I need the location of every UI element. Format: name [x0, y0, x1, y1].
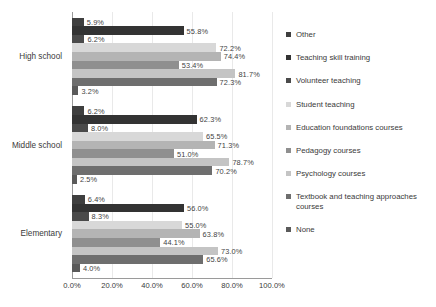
- bar[interactable]: [72, 204, 184, 213]
- legend-label: None: [296, 225, 315, 235]
- legend-item[interactable]: Student teaching: [286, 100, 434, 110]
- x-tick-label: 20.0%: [101, 281, 123, 290]
- legend-item[interactable]: Pedagogy courses: [286, 146, 434, 156]
- bar-value-label: 70.2%: [212, 166, 236, 175]
- bar-row: 53.4%: [72, 61, 272, 70]
- bar[interactable]: [72, 61, 179, 70]
- bar-row: 72.2%: [72, 43, 272, 52]
- legend-item[interactable]: Textbook and teaching approaches courses: [286, 192, 434, 211]
- x-tick-label: 40.0%: [141, 281, 163, 290]
- bar-value-label: 72.3%: [217, 78, 241, 87]
- bar-row: 70.2%: [72, 166, 272, 175]
- bar[interactable]: [72, 166, 212, 175]
- bar[interactable]: [72, 26, 184, 35]
- bar[interactable]: [72, 115, 197, 124]
- bar[interactable]: [72, 35, 84, 44]
- bar[interactable]: [72, 255, 203, 264]
- bar-row: 51.0%: [72, 149, 272, 158]
- bar[interactable]: [72, 43, 216, 52]
- bar-value-label: 6.2%: [84, 35, 104, 44]
- legend-label: Textbook and teaching approaches courses: [296, 192, 434, 211]
- bar-group: 6.2%62.3%8.0%65.5%71.3%51.0%78.7%70.2%2.…: [72, 101, 272, 190]
- bar-row: 6.2%: [72, 106, 272, 115]
- bar-value-label: 63.8%: [200, 229, 224, 238]
- x-axis-tick-labels: 0.0%20.0%40.0%60.0%80.0%100.0%: [72, 281, 272, 297]
- bar-group: 6.4%56.0%8.3%55.0%63.8%44.1%73.0%65.6%4.…: [72, 189, 272, 278]
- bar[interactable]: [72, 238, 160, 247]
- legend-item[interactable]: Education foundations courses: [286, 123, 434, 133]
- y-axis-category-labels: High schoolMiddle schoolElementary: [0, 12, 68, 278]
- bar-groups: 5.9%55.8%6.2%72.2%74.4%53.4%81.7%72.3%3.…: [72, 12, 272, 278]
- bar-row: 73.0%: [72, 247, 272, 256]
- legend-swatch-icon: [286, 171, 291, 176]
- bar-value-label: 74.4%: [221, 52, 245, 61]
- x-tick-label: 80.0%: [221, 281, 243, 290]
- gridline: [272, 12, 273, 278]
- chart-legend: OtherTeaching skill trainingVolunteer te…: [286, 30, 434, 248]
- bar-row: 6.2%: [72, 35, 272, 44]
- bar-value-label: 5.9%: [84, 17, 104, 26]
- legend-label: Volunteer teaching: [296, 76, 361, 86]
- plot-area: 5.9%55.8%6.2%72.2%74.4%53.4%81.7%72.3%3.…: [72, 12, 272, 278]
- bar[interactable]: [72, 158, 229, 167]
- bar[interactable]: [72, 195, 85, 204]
- legend-swatch-icon: [286, 194, 291, 199]
- legend-label: Psychology courses: [296, 169, 365, 179]
- bar[interactable]: [72, 212, 89, 221]
- legend-swatch-icon: [286, 78, 291, 83]
- bar-value-label: 62.3%: [197, 115, 221, 124]
- bar-group: 5.9%55.8%6.2%72.2%74.4%53.4%81.7%72.3%3.…: [72, 12, 272, 101]
- bar[interactable]: [72, 264, 80, 273]
- legend-item[interactable]: Volunteer teaching: [286, 76, 434, 86]
- y-category-label: Elementary: [0, 189, 68, 278]
- bar-row: 65.6%: [72, 255, 272, 264]
- bar[interactable]: [72, 18, 84, 27]
- bar-value-label: 8.3%: [89, 212, 109, 221]
- bar[interactable]: [72, 69, 235, 78]
- bar[interactable]: [72, 229, 200, 238]
- legend-item[interactable]: Psychology courses: [286, 169, 434, 179]
- bar[interactable]: [72, 247, 218, 256]
- legend-item[interactable]: Other: [286, 30, 434, 40]
- bar[interactable]: [72, 124, 88, 133]
- bar-value-label: 3.2%: [78, 86, 98, 95]
- legend-swatch-icon: [286, 125, 291, 130]
- y-category-label: Middle school: [0, 101, 68, 190]
- bar[interactable]: [72, 106, 84, 115]
- bar[interactable]: [72, 78, 217, 87]
- legend-swatch-icon: [286, 148, 291, 153]
- bar-row: 55.0%: [72, 221, 272, 230]
- bar-value-label: 6.2%: [84, 106, 104, 115]
- bar-value-label: 44.1%: [160, 238, 184, 247]
- bar-value-label: 65.6%: [203, 255, 227, 264]
- bar[interactable]: [72, 149, 174, 158]
- bar-row: 81.7%: [72, 69, 272, 78]
- legend-label: Other: [296, 30, 316, 40]
- legend-label: Education foundations courses: [296, 123, 403, 133]
- bar-value-label: 51.0%: [174, 149, 198, 158]
- bar-row: 56.0%: [72, 204, 272, 213]
- x-tick-label: 100.0%: [259, 281, 285, 290]
- x-tick-label: 60.0%: [181, 281, 203, 290]
- bar-row: 65.5%: [72, 132, 272, 141]
- bar-value-label: 8.0%: [88, 123, 108, 132]
- legend-label: Student teaching: [296, 100, 355, 110]
- bar-row: 4.0%: [72, 264, 272, 273]
- bar[interactable]: [72, 141, 215, 150]
- x-axis-line: [72, 278, 272, 279]
- bar[interactable]: [72, 132, 203, 141]
- bar-value-label: 53.4%: [179, 60, 203, 69]
- bar-row: 62.3%: [72, 115, 272, 124]
- legend-item[interactable]: None: [286, 225, 434, 235]
- legend-swatch-icon: [286, 55, 291, 60]
- bar-row: 8.3%: [72, 212, 272, 221]
- bar[interactable]: [72, 221, 182, 230]
- x-tick-label: 0.0%: [63, 281, 80, 290]
- bar-row: 2.5%: [72, 175, 272, 184]
- bar-value-label: 71.3%: [215, 141, 239, 150]
- bar-value-label: 56.0%: [184, 203, 208, 212]
- legend-swatch-icon: [286, 102, 291, 107]
- bar-row: 78.7%: [72, 158, 272, 167]
- bar[interactable]: [72, 52, 221, 61]
- legend-item[interactable]: Teaching skill training: [286, 53, 434, 63]
